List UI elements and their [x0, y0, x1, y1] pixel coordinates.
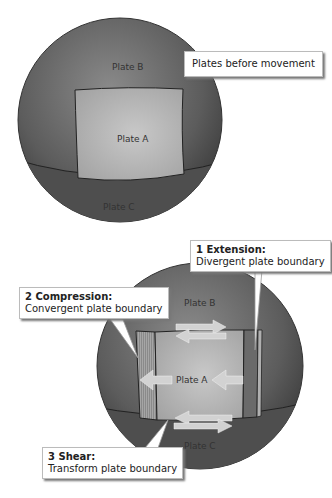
- callout-before-movement: Plates before movement: [184, 51, 323, 77]
- callout-shear: 3 Shear: Transform plate boundary: [42, 447, 183, 479]
- callout-title: 1 Extension:: [196, 244, 325, 256]
- callout-extension: 1 Extension: Divergent plate boundary: [190, 240, 331, 272]
- plate-a-label: Plate A: [117, 134, 149, 144]
- callout-title: 3 Shear:: [48, 451, 177, 463]
- plate-c-label: Plate C: [184, 441, 216, 451]
- callout-text: Divergent plate boundary: [196, 256, 325, 267]
- top-sphere: Plate B Plate A Plate C: [10, 18, 230, 230]
- plate-c-label: Plate C: [103, 202, 135, 212]
- plate-b-label: Plate B: [184, 298, 216, 308]
- plate-b-label: Plate B: [112, 62, 144, 72]
- callout-compression: 2 Compression: Convergent plate boundary: [19, 287, 169, 319]
- divergent-edge: [257, 330, 262, 417]
- plate-a-label: Plate A: [176, 375, 208, 385]
- callout-text: Plates before movement: [192, 58, 315, 69]
- callout-text: Convergent plate boundary: [25, 303, 163, 314]
- callout-text: Transform plate boundary: [48, 463, 177, 474]
- callout-title: 2 Compression:: [25, 291, 163, 303]
